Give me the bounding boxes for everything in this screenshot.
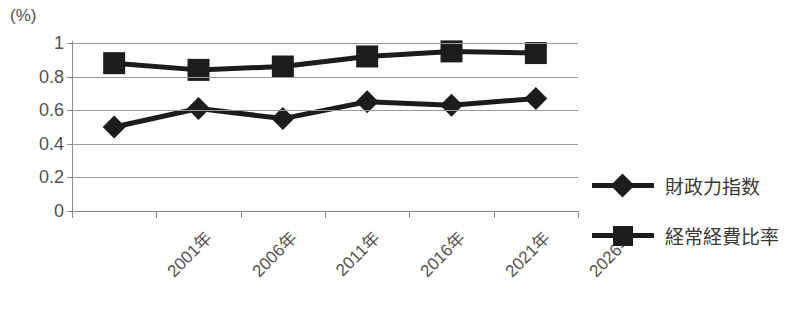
legend-item-0[interactable]: 財政力指数 xyxy=(592,168,792,202)
chart-container: (%) 10.80.60.40.20 2001年2006年2011年2016年2… xyxy=(0,0,797,310)
y-axis-tick xyxy=(67,77,73,78)
y-axis-tick xyxy=(67,110,73,111)
x-axis-tick-label: 2021年 xyxy=(498,225,554,281)
y-axis-tick xyxy=(67,43,73,44)
x-axis-tick-label: 2001年 xyxy=(160,225,216,281)
y-axis-tick xyxy=(67,144,73,145)
y-axis-tick xyxy=(67,177,73,178)
x-axis-tick-label: 2006年 xyxy=(245,225,301,281)
x-axis-tick-label: 2016年 xyxy=(413,225,469,281)
diamond-marker-icon xyxy=(592,172,654,198)
legend-item-1[interactable]: 経常経費比率 xyxy=(592,218,792,252)
x-axis-tick-label: 2011年 xyxy=(329,225,385,281)
y-axis-tick xyxy=(67,211,73,212)
legend-label-0: 財政力指数 xyxy=(665,172,760,199)
chart-legend: 財政力指数 経常経費比率 xyxy=(592,160,792,270)
legend-label-1: 経常経費比率 xyxy=(665,222,779,249)
square-marker-icon xyxy=(592,222,654,248)
